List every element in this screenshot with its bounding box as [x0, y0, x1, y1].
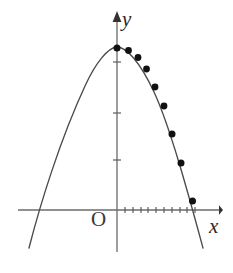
x-axis-arrowhead: [219, 205, 223, 215]
sample-point: [125, 47, 132, 54]
sample-point: [143, 66, 150, 73]
parabola-curve: [29, 47, 203, 248]
plot-canvas: [0, 0, 233, 273]
sample-point: [135, 54, 142, 61]
sample-point: [189, 198, 196, 205]
sample-point: [169, 131, 176, 138]
y-axis-label: y: [122, 9, 131, 30]
sample-point: [161, 103, 168, 110]
sample-point: [152, 84, 159, 91]
origin-label: O: [91, 209, 106, 230]
y-axis-arrowhead: [113, 11, 122, 22]
sample-point: [114, 45, 121, 52]
x-axis-label: x: [209, 216, 218, 237]
parabola-figure: y x O: [0, 0, 233, 273]
sample-point: [178, 160, 185, 167]
